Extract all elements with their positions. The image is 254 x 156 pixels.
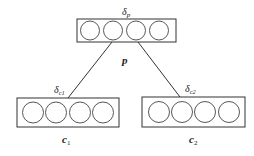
delta-p-label: δp: [122, 6, 131, 19]
node-c2: δc2 c2: [142, 83, 245, 147]
node-c2-label: c2: [189, 133, 198, 147]
delta-c1-label: δc1: [54, 84, 65, 96]
node-p: δp p: [77, 6, 176, 66]
tree-diagram: δp p δc1 c1 δc2 c2: [0, 0, 254, 156]
edge-p-c2: [138, 42, 180, 97]
node-p-label: p: [121, 54, 128, 66]
node-c1-label: c1: [62, 133, 71, 147]
node-c1: δc1 c1: [17, 84, 119, 147]
delta-c2-label: δc2: [185, 83, 197, 95]
edge-p-c1: [68, 42, 112, 98]
